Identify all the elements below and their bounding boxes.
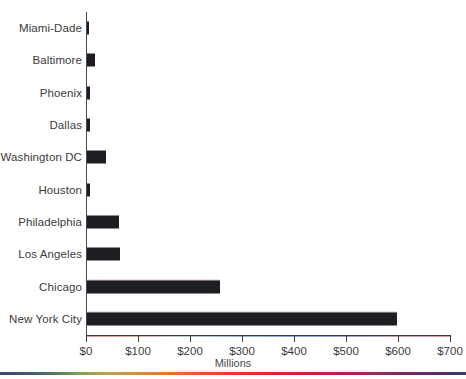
- x-tick: [346, 335, 347, 342]
- category-label-baltimore: Baltimore: [33, 54, 82, 66]
- spectrum-gradient-strip: [0, 372, 466, 375]
- bar-row: Philadelphia: [0, 206, 466, 238]
- x-tick: [138, 335, 139, 342]
- bar-row: New York City: [0, 303, 466, 335]
- bar-rows: Miami-DadeBaltimorePhoenixDallasWashingt…: [0, 12, 466, 335]
- x-tick-label: $200: [177, 345, 203, 357]
- plot-area: Miami-DadeBaltimorePhoenixDallasWashingt…: [0, 0, 466, 379]
- category-label-washington-dc: Washington DC: [1, 151, 82, 163]
- x-tick-label: $400: [281, 345, 307, 357]
- category-label-philadelphia: Philadelphia: [18, 216, 82, 228]
- category-label-miami-dade: Miami-Dade: [19, 22, 82, 34]
- bar-dallas: [87, 119, 90, 132]
- bar-new-york-city: [87, 312, 397, 325]
- bar-philadelphia: [87, 215, 119, 228]
- bar-houston: [87, 183, 90, 196]
- bar-washington-dc: [87, 151, 106, 164]
- x-axis-color-tint: [86, 336, 450, 337]
- x-tick-label: $700: [437, 345, 463, 357]
- bar-row: Miami-Dade: [0, 12, 466, 44]
- x-tick: [398, 335, 399, 342]
- x-tick: [242, 335, 243, 342]
- category-label-phoenix: Phoenix: [40, 87, 82, 99]
- x-tick: [190, 335, 191, 342]
- bar-row: Chicago: [0, 270, 466, 302]
- bar-row: Washington DC: [0, 141, 466, 173]
- bar-row: Houston: [0, 173, 466, 205]
- x-tick: [86, 335, 87, 342]
- x-tick-label: $600: [385, 345, 411, 357]
- bar-row: Los Angeles: [0, 238, 466, 270]
- x-axis-ticks: $0$100$200$300$400$500$600$700: [0, 335, 466, 336]
- x-tick-label: $500: [333, 345, 359, 357]
- x-tick-label: $300: [229, 345, 255, 357]
- bar-los-angeles: [87, 248, 120, 261]
- x-tick: [450, 335, 451, 342]
- x-axis-title: Millions: [0, 357, 466, 369]
- bar-chicago: [87, 280, 220, 293]
- category-label-chicago: Chicago: [39, 281, 82, 293]
- bar-phoenix: [87, 86, 90, 99]
- category-label-dallas: Dallas: [49, 119, 82, 131]
- x-tick-label: $0: [80, 345, 93, 357]
- x-tick-label: $100: [125, 345, 151, 357]
- category-label-los-angeles: Los Angeles: [18, 248, 82, 260]
- x-tick: [294, 335, 295, 342]
- bar-baltimore: [87, 54, 95, 67]
- bar-row: Dallas: [0, 109, 466, 141]
- bar-row: Phoenix: [0, 77, 466, 109]
- bar-miami-dade: [87, 22, 89, 35]
- bar-row: Baltimore: [0, 44, 466, 76]
- category-label-new-york-city: New York City: [9, 313, 82, 325]
- horizontal-bar-chart: Miami-DadeBaltimorePhoenixDallasWashingt…: [0, 0, 466, 379]
- category-label-houston: Houston: [38, 184, 82, 196]
